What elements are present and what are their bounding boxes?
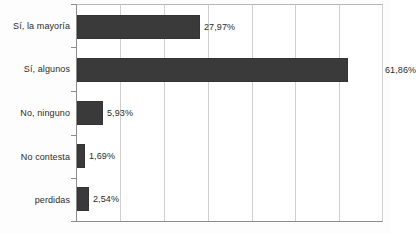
plot-area: 27,97% 61,86% 5,93% 1,69% 2,54% (76, 4, 383, 222)
category-label: Sí, la mayoría (0, 4, 74, 48)
bar-row: 2,54% (77, 178, 382, 221)
category-label: No contesta (0, 135, 74, 179)
bar-row: 27,97% (77, 5, 382, 48)
bar-value-label: 2,54% (93, 194, 119, 204)
bar (77, 15, 200, 39)
bar-row: 1,69% (77, 135, 382, 178)
bar-series: 27,97% 61,86% 5,93% 1,69% 2,54% (77, 5, 382, 221)
bar-value-label: 27,97% (204, 22, 235, 32)
bar (77, 187, 89, 211)
bar-value-label: 5,93% (107, 108, 133, 118)
bar-row: 5,93% (77, 91, 382, 134)
gridline (382, 5, 383, 221)
category-axis-labels: Sí, la mayoría Sí, algunos No, ninguno N… (0, 4, 74, 222)
bar (77, 58, 348, 82)
bar-value-label: 1,69% (89, 151, 115, 161)
bar (77, 101, 103, 125)
bar-row: 61,86% (77, 48, 382, 91)
bar-value-label: 61,86% (385, 65, 416, 75)
category-label: Sí, algunos (0, 48, 74, 92)
category-label: No, ninguno (0, 91, 74, 135)
category-label: perdidas (0, 178, 74, 222)
bar (77, 144, 85, 168)
